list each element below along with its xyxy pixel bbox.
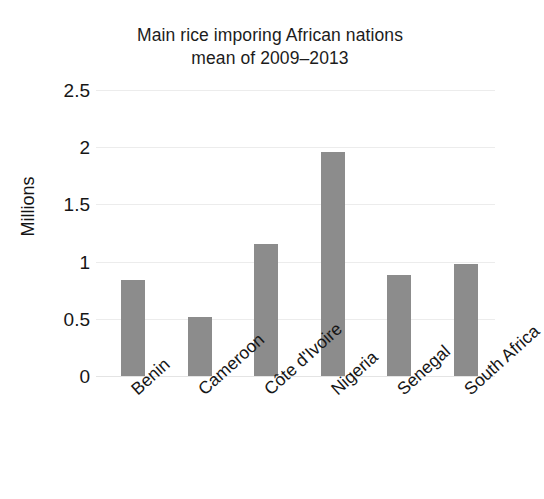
bar[interactable] (387, 275, 411, 376)
y-axis-tick-label: 1.5 (30, 195, 90, 214)
chart-title: Main rice imporing African nations mean … (60, 24, 480, 70)
y-axis-tick-label: 2.5 (30, 81, 90, 100)
y-axis-tick-labels: 00.511.522.5 (26, 90, 90, 376)
bar-series (96, 90, 495, 376)
y-axis-tick-label: 0 (30, 367, 90, 386)
bar[interactable] (254, 244, 278, 376)
y-axis-tick-label: 1 (30, 253, 90, 272)
y-axis-tick-label: 0.5 (30, 310, 90, 329)
bar[interactable] (121, 280, 145, 376)
x-axis-tick-labels: BeninCameroonCôte d'IvoireNigeriaSenegal… (96, 376, 495, 496)
y-axis-tick-label: 2 (30, 138, 90, 157)
chart-title-line-1: Main rice imporing African nations (60, 24, 480, 47)
bar[interactable] (188, 317, 212, 376)
plot-area (96, 90, 495, 376)
chart-title-line-2: mean of 2009–2013 (60, 47, 480, 70)
bar[interactable] (454, 264, 478, 376)
